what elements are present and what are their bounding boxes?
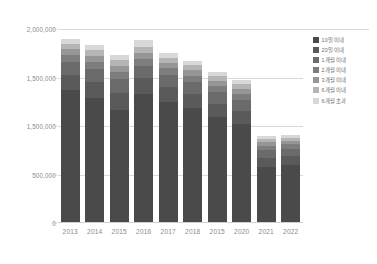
legend-swatch-icon [313,37,319,43]
legend-swatch-icon [313,98,319,104]
plot-area [58,29,303,223]
legend-item[interactable]: 3개월 이내 [313,76,346,84]
bar-2021[interactable] [257,136,276,223]
axis-baseline [58,222,303,223]
bar-segment[interactable] [183,76,202,83]
bar-segment[interactable] [134,40,153,48]
legend-swatch-icon [313,67,319,73]
bar-segment[interactable] [257,158,276,167]
bar-segment[interactable] [110,72,129,79]
y-axis-tick-mark [52,77,57,78]
bar-segment[interactable] [110,93,129,109]
bar-segment[interactable] [257,167,276,223]
bar-segment[interactable] [134,66,153,79]
bar-segment[interactable] [159,75,178,87]
stacked-bar-chart: 2,000,0001,500,0001,500,000500,0000 2013… [0,0,377,264]
legend-swatch-icon [313,77,319,83]
bar-segment[interactable] [232,111,251,124]
bar-segment[interactable] [232,100,251,111]
legend-label: 20일 이내 [322,46,345,54]
legend-label: 6개월 이내 [322,86,347,94]
bar-segment[interactable] [61,90,80,223]
legend-item[interactable]: 6개월 이내 [313,86,346,94]
bar-segment[interactable] [183,108,202,223]
bar-segment[interactable] [134,94,153,223]
bar-segment[interactable] [232,124,251,223]
bar-segment[interactable] [159,68,178,75]
bar-2013[interactable] [61,39,80,223]
bar-2022[interactable] [281,135,300,223]
bar-segment[interactable] [61,62,80,75]
bar-2020[interactable] [232,80,251,223]
legend-label: 1개월 이내 [322,56,347,64]
legend-item[interactable]: 10일 이내 [313,36,346,44]
legend-label: 10일 이내 [322,36,345,44]
bar-segment[interactable] [281,156,300,165]
legend-label: 3개월 이내 [322,76,347,84]
bar-2016[interactable] [134,40,153,223]
bar-segment[interactable] [208,117,227,223]
bar-2014[interactable] [85,45,104,223]
bar-segment[interactable] [85,98,104,223]
bar-segment[interactable] [183,94,202,108]
legend-label: 6개월 초과 [322,97,347,105]
bar-segment[interactable] [134,78,153,94]
chart-legend: 10일 이내20일 이내1개월 이내2개월 이내3개월 이내6개월 이내6개월 … [313,36,346,105]
y-axis-tick-mark [52,174,57,175]
bar-group [58,29,303,223]
bar-segment[interactable] [208,92,227,103]
bar-2017[interactable] [159,53,178,223]
bar-segment[interactable] [134,59,153,66]
bar-2018[interactable] [183,61,202,223]
bar-segment[interactable] [61,55,80,62]
bar-segment[interactable] [159,102,178,223]
y-axis-tick-mark [52,29,57,30]
bar-2015[interactable] [208,72,227,223]
bar-segment[interactable] [110,110,129,223]
bar-segment[interactable] [85,62,104,69]
bar-segment[interactable] [61,75,80,91]
bar-segment[interactable] [85,69,104,82]
bar-segment[interactable] [257,150,276,158]
legend-swatch-icon [313,47,319,53]
y-axis-tick-mark [52,223,57,224]
legend-item[interactable]: 2개월 이내 [313,66,346,74]
bar-segment[interactable] [183,82,202,94]
bar-segment[interactable] [281,149,300,156]
x-axis-tick-label: 2022 [276,228,306,235]
legend-item[interactable]: 1개월 이내 [313,56,346,64]
bar-segment[interactable] [208,104,227,118]
legend-swatch-icon [313,87,319,93]
bar-2015[interactable] [110,55,129,223]
legend-swatch-icon [313,57,319,63]
legend-item[interactable]: 6개월 초과 [313,97,346,105]
y-axis-tick-mark [52,126,57,127]
legend-label: 2개월 이내 [322,66,347,74]
legend-item[interactable]: 20일 이내 [313,46,346,54]
bar-segment[interactable] [85,82,104,98]
bar-segment[interactable] [159,87,178,102]
bar-segment[interactable] [110,79,129,93]
bar-segment[interactable] [281,165,300,223]
